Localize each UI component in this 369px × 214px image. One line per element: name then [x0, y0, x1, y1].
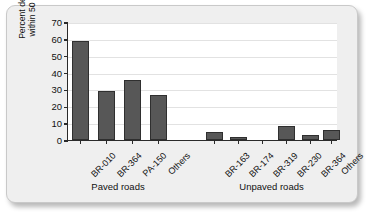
x-axis-tick — [158, 140, 159, 144]
x-axis-tick — [214, 140, 215, 144]
y-axis-tick — [64, 90, 68, 91]
y-axis-tick — [64, 73, 68, 74]
y-axis-tick-label: 50 — [51, 52, 62, 62]
group-label: Paved roads — [58, 181, 178, 192]
y-axis-tick-label: 10 — [51, 119, 62, 129]
y-axis-title-line2: within 50 km of road — [27, 0, 37, 36]
y-axis-tick — [64, 39, 68, 40]
y-axis-tick — [64, 22, 68, 23]
y-axis-tick-label: 30 — [51, 86, 62, 96]
y-axis-tick-label: 60 — [51, 35, 62, 45]
group-label: Unpaved roads — [212, 181, 332, 192]
x-axis-tick — [132, 140, 133, 144]
x-axis-tick — [106, 140, 107, 144]
gridline — [68, 23, 337, 24]
bar — [323, 130, 340, 140]
x-axis-label: BR-163 — [224, 151, 252, 179]
y-axis-title: Percent deforestation within 50 km of ro… — [9, 0, 45, 58]
y-axis-tick — [64, 107, 68, 108]
x-axis-label: BR-230 — [296, 151, 324, 179]
x-axis-label: BR-364 — [116, 151, 144, 179]
y-axis-title-line1: Percent deforestation — [17, 0, 27, 39]
bar — [124, 80, 141, 140]
y-axis-tick-label: 20 — [51, 103, 62, 113]
bar — [278, 126, 295, 140]
x-axis-tick — [262, 140, 263, 144]
y-axis-tick — [64, 140, 68, 141]
x-axis-label: Others — [167, 151, 192, 176]
y-axis-tick-label: 70 — [51, 18, 62, 28]
x-axis-label: BR-010 — [90, 151, 118, 179]
y-axis-tick-label: 0 — [57, 136, 62, 146]
bar — [150, 95, 167, 141]
y-axis-tick — [64, 123, 68, 124]
bar — [72, 41, 89, 140]
x-axis-label: BR-319 — [272, 151, 300, 179]
y-axis-tick-label: 40 — [51, 69, 62, 79]
bar — [206, 132, 223, 140]
bar — [98, 91, 115, 140]
x-axis-label: BR-174 — [248, 151, 276, 179]
chart-card: Percent deforestation within 50 km of ro… — [6, 5, 358, 203]
x-axis-tick — [286, 140, 287, 144]
gridline — [68, 57, 337, 58]
x-axis-tick — [238, 140, 239, 144]
gridline — [68, 40, 337, 41]
x-axis-label: PA-150 — [141, 151, 168, 178]
y-axis-tick — [64, 56, 68, 57]
plot-area: 010203040506070 — [67, 23, 337, 141]
gridline — [68, 74, 337, 75]
x-axis-tick — [310, 140, 311, 144]
x-axis-tick — [331, 140, 332, 144]
x-axis-tick — [80, 140, 81, 144]
